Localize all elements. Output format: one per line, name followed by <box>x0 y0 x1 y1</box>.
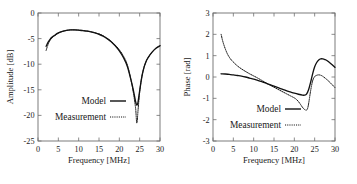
amplitude-plot-svg: 0510152025300-5-10-15-20-25 Frequency [M… <box>0 0 178 184</box>
amplitude-ylabel: Amplitude [dB] <box>5 50 15 105</box>
phase-plot-panel: 0510152025303210-1-2-3 Frequency [MHz] P… <box>179 0 357 184</box>
x-tick-label: 5 <box>56 145 60 154</box>
x-tick-label: 10 <box>250 145 258 154</box>
x-tick-label: 25 <box>136 145 144 154</box>
legend-model-label: Model <box>82 96 107 106</box>
y-tick-label: 3 <box>205 9 209 18</box>
series-model-line <box>46 30 160 105</box>
amplitude-legend: Model Measurement <box>55 96 126 122</box>
x-tick-label: 20 <box>290 145 298 154</box>
x-tick-label: 5 <box>231 145 235 154</box>
y-tick-label: -10 <box>24 60 35 69</box>
x-tick-label: 0 <box>36 145 40 154</box>
phase-tick-labels: 0510152025303210-1-2-3 <box>203 9 339 154</box>
y-tick-label: 0 <box>30 9 34 18</box>
x-tick-label: 0 <box>211 145 215 154</box>
phase-legend: Model Measurement <box>230 104 301 130</box>
x-tick-label: 30 <box>331 145 339 154</box>
y-tick-label: -15 <box>24 86 35 95</box>
amplitude-plot-panel: 0510152025300-5-10-15-20-25 Frequency [M… <box>0 0 178 184</box>
y-tick-label: -3 <box>203 137 210 146</box>
series-measurement-line <box>46 30 160 123</box>
x-tick-label: 30 <box>156 145 164 154</box>
x-tick-label: 10 <box>75 145 83 154</box>
x-tick-label: 20 <box>115 145 123 154</box>
x-tick-label: 15 <box>95 145 103 154</box>
figure-container: 0510152025300-5-10-15-20-25 Frequency [M… <box>0 0 357 184</box>
x-tick-label: 25 <box>311 145 319 154</box>
legend-measurement-label: Measurement <box>55 112 106 122</box>
y-tick-label: -25 <box>24 137 35 146</box>
phase-curves <box>221 34 335 110</box>
amplitude-tick-labels: 0510152025300-5-10-15-20-25 <box>24 9 165 154</box>
phase-plot-svg: 0510152025303210-1-2-3 Frequency [MHz] P… <box>179 0 357 184</box>
y-tick-label: 2 <box>205 30 209 39</box>
series-measurement-line <box>221 34 335 110</box>
legend-measurement-label: Measurement <box>230 120 281 130</box>
y-tick-label: 0 <box>205 73 209 82</box>
legend-model-label: Model <box>257 104 282 114</box>
phase-xlabel: Frequency [MHz] <box>243 155 305 165</box>
amplitude-curves <box>46 30 160 123</box>
amplitude-xlabel: Frequency [MHz] <box>68 155 130 165</box>
y-tick-label: -20 <box>24 111 35 120</box>
y-tick-label: -5 <box>28 35 35 44</box>
phase-ylabel: Phase [rad] <box>182 57 192 96</box>
x-tick-label: 15 <box>270 145 278 154</box>
y-tick-label: 1 <box>205 52 209 61</box>
y-tick-label: -1 <box>203 94 210 103</box>
y-tick-label: -2 <box>203 116 210 125</box>
